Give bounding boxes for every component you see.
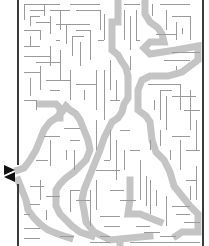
maze-board: [0, 0, 209, 246]
